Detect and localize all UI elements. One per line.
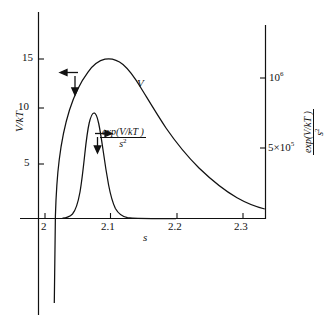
xtick-2-2: 2.2 xyxy=(168,221,182,232)
xtick-2-3: 2.3 xyxy=(234,221,248,232)
ytick-right-5e5: 5×105 xyxy=(268,141,294,153)
curve-exp-fraction: exp(V/kT ) s2 xyxy=(100,127,146,149)
xtick-2-1: 2.1 xyxy=(101,221,115,232)
curve-exp-label: exp(V/kT ) s2 xyxy=(100,127,146,150)
y-axis-right-title: exp(V/kT ) s2 xyxy=(303,109,326,155)
y-axis-left-title: V/kT xyxy=(14,111,25,132)
curve-v xyxy=(54,59,264,303)
x-axis-ticks xyxy=(45,213,243,219)
curve-v-label: V xyxy=(137,78,144,89)
ytick-right-1e6-base: 10 xyxy=(269,71,280,83)
ytick-right-1e6-exp: 6 xyxy=(280,70,284,78)
ytick-right-5e5-prefix: 5×10 xyxy=(268,141,291,153)
ytick-right-1e6: 106 xyxy=(269,71,284,83)
right-axis-ticks xyxy=(260,78,266,148)
xtick-2: 2 xyxy=(41,221,47,232)
ytick-left-15: 15 xyxy=(22,52,33,63)
x-axis-title: s xyxy=(143,232,147,243)
ytick-left-5: 5 xyxy=(24,157,30,168)
ytick-right-5e5-exp: 5 xyxy=(291,140,295,148)
y-axis-right-numerator: exp(V/kT ) xyxy=(303,109,314,155)
curve-exp-denominator: s2 xyxy=(100,138,146,149)
left-axis-ticks xyxy=(39,59,45,164)
y-axis-right-denominator: s2 xyxy=(314,109,325,155)
y-axis-right-fraction: exp(V/kT ) s2 xyxy=(303,109,325,155)
